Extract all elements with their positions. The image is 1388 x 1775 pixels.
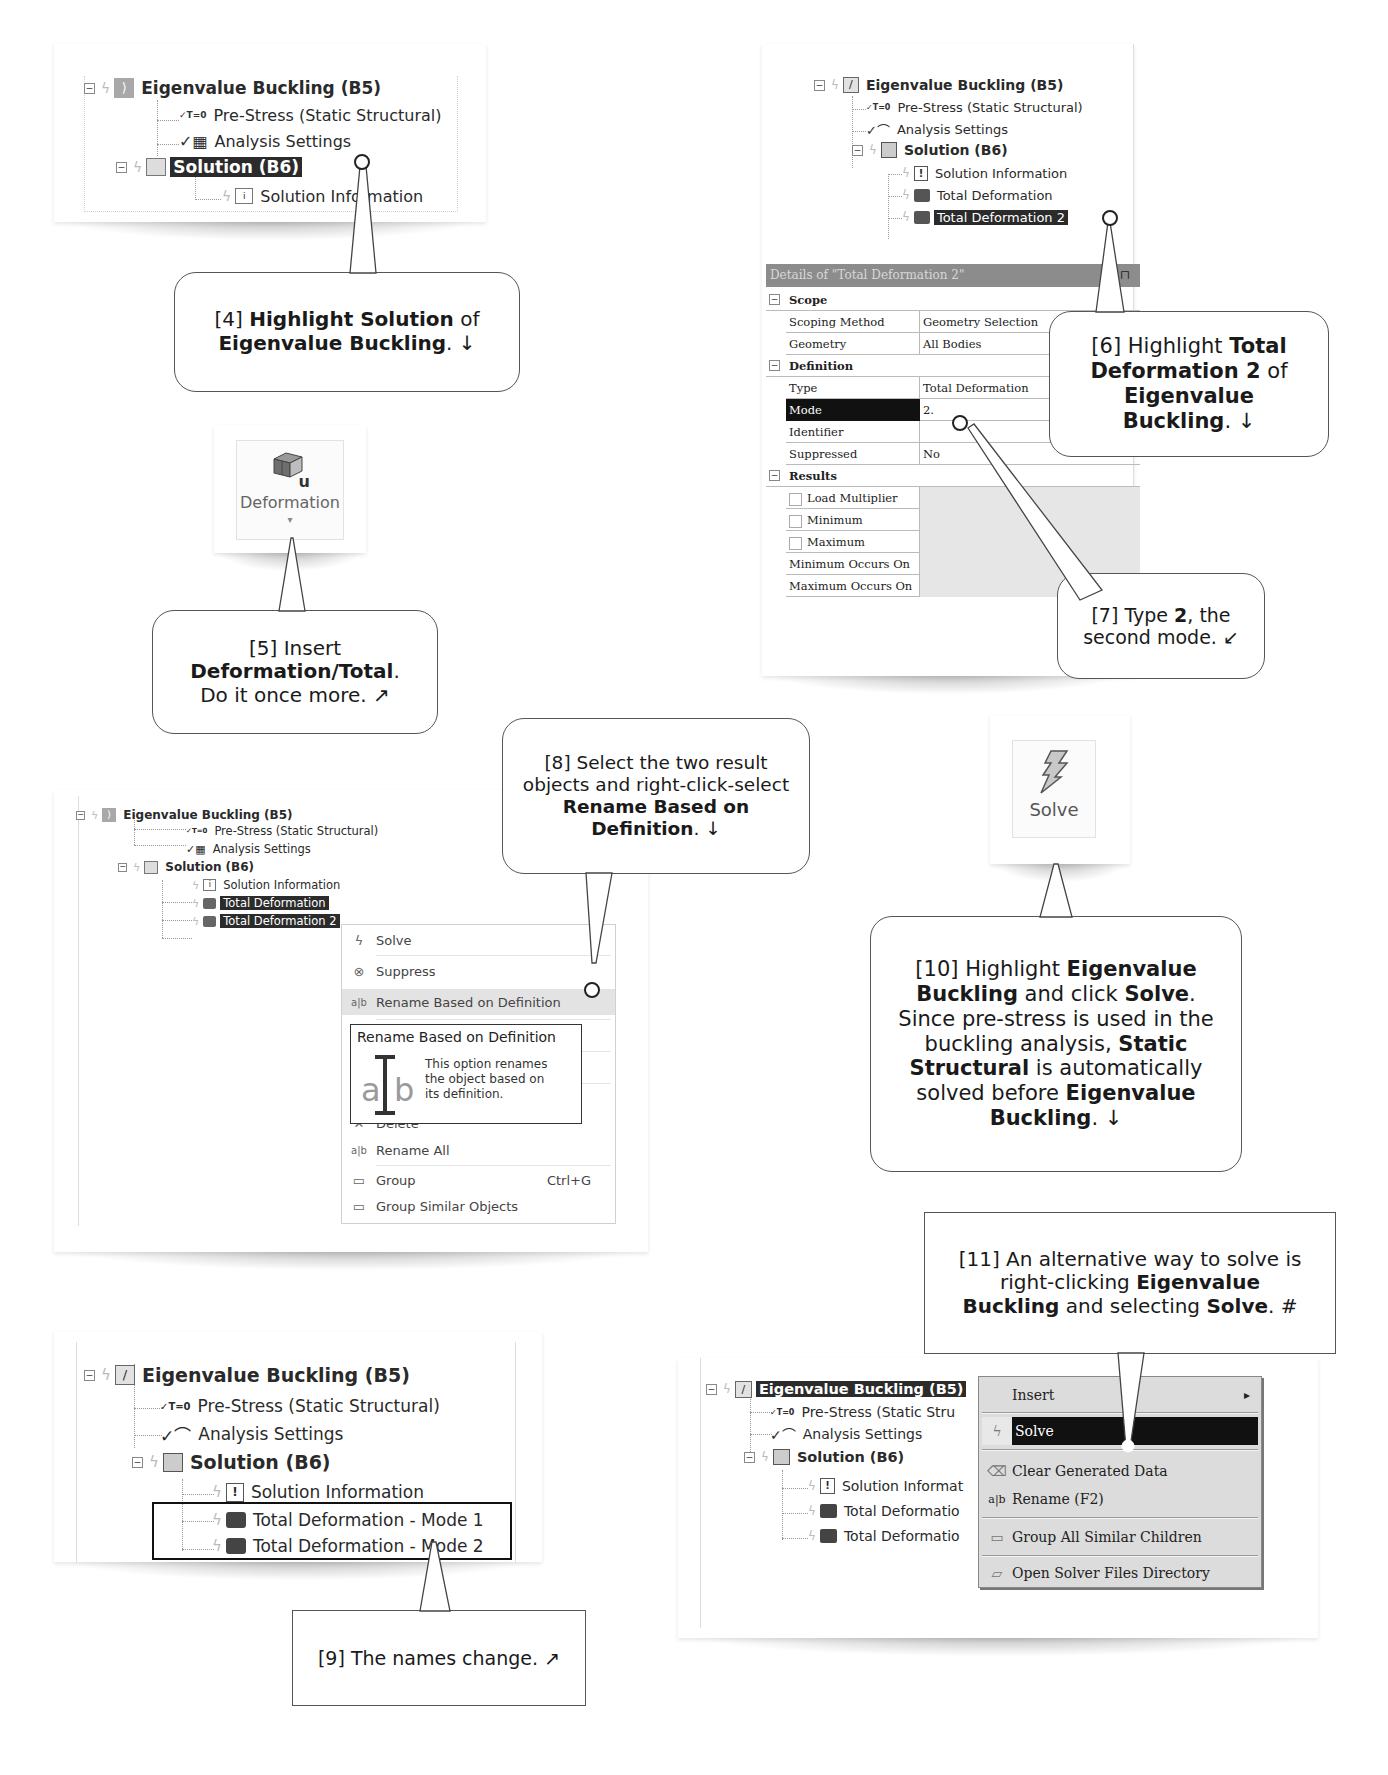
property-value — [920, 531, 1140, 553]
tree-item-pre-stress[interactable]: ✓T=0 Pre-Stress (Static Structural) — [160, 1394, 443, 1418]
menu-item-group[interactable]: ▭ Group Ctrl+G — [342, 1167, 615, 1193]
tree-item-pre-stress[interactable]: ✓T=0 Pre-Stress (Static Structural) — [179, 104, 444, 126]
tree-item-total-deformation-mode-1[interactable]: ϟ Total Deformation - Mode 1 — [212, 1508, 487, 1532]
details-row-maximum[interactable]: Maximum — [786, 531, 1140, 553]
tree-item-solution-information[interactable]: ϟ ! Solution Information — [902, 163, 1070, 183]
tree-item-solution[interactable]: − ϟ Solution (B6) — [852, 140, 1011, 160]
tree-item-label: Eigenvalue Buckling (B5) — [139, 1364, 413, 1386]
menu-item-solve[interactable]: ϟ Solve — [982, 1417, 1258, 1445]
total-deformation-icon — [914, 211, 930, 224]
property-name: Minimum — [786, 509, 920, 531]
tree-item-analysis-settings[interactable]: ✓⌒ Analysis Settings — [770, 1424, 925, 1444]
tree-item-analysis-settings[interactable]: ✓▦ Analysis Settings — [186, 840, 314, 858]
parameter-checkbox[interactable] — [789, 515, 802, 528]
pre-stress-icon: ✓T=0 — [866, 103, 890, 112]
tree-item-total-deformation[interactable]: ϟ Total Deformation — [902, 185, 1056, 205]
category-label: Definition — [786, 355, 853, 377]
menu-item-rename[interactable]: a|b Rename (F2) — [982, 1485, 1258, 1513]
collapse-icon[interactable]: − — [132, 1457, 143, 1468]
menu-item-solve[interactable]: ϟ Solve — [342, 927, 615, 953]
menu-item-clear-generated-data[interactable]: ⌫ Clear Generated Data — [982, 1457, 1258, 1485]
tree-item-solution[interactable]: − ϟ Solution (B6) — [132, 1449, 334, 1475]
menu-item-rename-all[interactable]: a|b Rename All — [342, 1137, 615, 1163]
pin-icon[interactable]: ⊓ — [1120, 264, 1130, 287]
menu-item-group-all-similar-children[interactable]: ▭ Group All Similar Children — [982, 1523, 1258, 1551]
tree-item-solution[interactable]: − ϟ Solution (B6) — [116, 155, 302, 179]
tree-item-solution-information[interactable]: ϟ ! Solution Information — [212, 1480, 427, 1504]
solve-icon — [1037, 749, 1071, 795]
analysis-settings-icon: ✓⌒ — [160, 1422, 191, 1447]
tree-item-label: Analysis Settings — [210, 842, 314, 856]
menu-item-rename-based-on-definition[interactable]: a|b Rename Based on Definition — [342, 989, 615, 1015]
solution-information-icon: i — [203, 879, 216, 891]
tree-item-label: Solution Informat — [839, 1478, 966, 1494]
parameter-checkbox[interactable] — [789, 493, 802, 506]
tree-item-analysis-settings[interactable]: ✓⌒ Analysis Settings — [160, 1422, 346, 1446]
details-row-minimum-occurs-on[interactable]: Minimum Occurs On — [786, 553, 1140, 575]
lightning-status-icon: ϟ — [212, 1537, 222, 1555]
collapse-icon[interactable]: − — [118, 863, 127, 872]
collapse-icon[interactable]: − — [769, 294, 780, 305]
tree-item-solution-information[interactable]: ϟ ! Solution Informat — [808, 1476, 966, 1496]
tree-item-label: Solution (B6) — [187, 1451, 334, 1473]
lightning-status-icon: ϟ — [212, 1511, 222, 1529]
tree-item-pre-stress[interactable]: ✓T=0 Pre-Stress (Static Structural) — [866, 97, 1086, 117]
tree-item-label: Total Deformation - Mode 2 — [250, 1536, 487, 1556]
collapse-icon[interactable]: − — [744, 1452, 755, 1463]
collapse-icon[interactable]: − — [76, 811, 85, 820]
menu-item-suppress[interactable]: ⊗ Suppress — [342, 958, 615, 984]
tree-item-total-deformation-2[interactable]: ϟ Total Deformation 2 — [902, 207, 1068, 227]
collapse-icon[interactable]: − — [84, 1370, 95, 1381]
lightning-status-icon: ϟ — [192, 915, 199, 928]
lightning-status-icon: ϟ — [212, 1483, 222, 1501]
collapse-icon[interactable]: − — [706, 1384, 717, 1395]
menu-item-group-similar-objects[interactable]: ▭ Group Similar Objects — [342, 1193, 615, 1219]
tree-item-solution[interactable]: − ϟ Solution (B6) — [744, 1446, 907, 1468]
tree-item-eigenvalue-buckling[interactable]: − ϟ / Eigenvalue Buckling (B5) — [814, 75, 1066, 95]
collapse-icon[interactable]: − — [769, 360, 780, 371]
details-row-load-multiplier[interactable]: Load Multiplier — [786, 487, 1140, 509]
deformation-ribbon-button[interactable]: u Deformation ▾ — [236, 440, 344, 540]
dropdown-arrow-icon[interactable]: ▾ — [237, 514, 343, 525]
tree-item-total-deformation-mode-2[interactable]: ϟ Total Deformation - Mode 2 — [212, 1534, 487, 1558]
lightning-status-icon: ϟ — [91, 809, 98, 822]
property-name: Scoping Method — [786, 311, 920, 333]
collapse-icon[interactable]: − — [116, 162, 127, 173]
menu-item-open-solver-files-directory[interactable]: ▱ Open Solver Files Directory — [982, 1559, 1258, 1587]
collapse-icon[interactable]: − — [814, 80, 825, 91]
total-deformation-icon — [203, 898, 216, 909]
collapse-icon[interactable]: − — [852, 145, 863, 156]
context-menu: Insert ▸ ϟ Solve ⌫ Clear Generated Data … — [978, 1376, 1262, 1588]
tree-item-pre-stress[interactable]: ✓T=0 Pre-Stress (Static Structural) — [186, 822, 381, 840]
collapse-icon[interactable]: − — [769, 470, 780, 481]
tree-item-eigenvalue-buckling[interactable]: − ϟ ⟩ Eigenvalue Buckling (B5) — [84, 76, 384, 100]
parameter-checkbox[interactable] — [789, 537, 802, 550]
buckling-analysis-icon: ⟩ — [114, 78, 134, 98]
tree-item-pre-stress[interactable]: ✓T=0 Pre-Stress (Static Stru — [770, 1402, 958, 1422]
solve-ribbon-button[interactable]: Solve — [1012, 740, 1096, 838]
tree-item-total-deformation[interactable]: ϟ Total Deformation — [192, 894, 329, 912]
tree-item-analysis-settings[interactable]: ✓▦ Analysis Settings — [179, 130, 354, 152]
tree-item-total-deformation-2[interactable]: ϟ Total Deformation 2 — [192, 912, 340, 930]
tree-item-solution-information[interactable]: ϟ i Solution Information — [222, 184, 426, 208]
tree-item-solution[interactable]: − ϟ Solution (B6) — [118, 858, 257, 876]
tree-item-eigenvalue-buckling[interactable]: − ϟ / Eigenvalue Buckling (B5) — [84, 1362, 413, 1388]
tree-item-label: Total Deformation 2 — [220, 914, 339, 928]
collapse-icon[interactable]: − — [84, 83, 95, 94]
property-name: Load Multiplier — [786, 487, 920, 509]
total-deformation-icon — [820, 1504, 837, 1518]
callout-step7: [7] Type 2, the second mode. ↙ — [1057, 573, 1265, 679]
tree-item-label: Solution (B6) — [901, 142, 1011, 158]
details-row-minimum[interactable]: Minimum — [786, 509, 1140, 531]
buckling-analysis-icon: / — [735, 1381, 752, 1398]
tree-item-analysis-settings[interactable]: ✓⌒ Analysis Settings — [866, 119, 1011, 139]
menu-item-insert[interactable]: Insert ▸ — [982, 1381, 1258, 1409]
tree-item-total-deformation[interactable]: ϟ Total Deformatio — [808, 1501, 963, 1521]
rename-icon: a|b — [982, 1493, 1012, 1506]
tree-item-total-deformation-2[interactable]: ϟ Total Deformatio — [808, 1526, 963, 1546]
total-deformation-icon — [820, 1529, 837, 1543]
details-category-scope[interactable]: − Scope — [766, 289, 1140, 311]
tree-item-eigenvalue-buckling[interactable]: − ϟ / Eigenvalue Buckling (B5) — [706, 1378, 966, 1400]
details-category-results[interactable]: − Results — [766, 465, 1140, 487]
tree-item-solution-information[interactable]: ϟ i Solution Information — [192, 876, 343, 894]
